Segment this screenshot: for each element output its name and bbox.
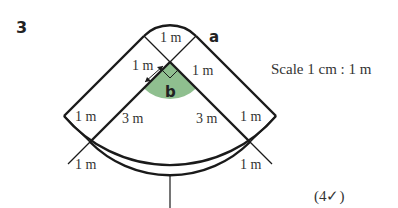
inner-left-arm	[90, 62, 170, 142]
garden-diagram: 1 m 1 m 1 m a b 1 m 3 m 3 m 1 m 1 m 1 m	[0, 0, 398, 208]
outer-left-edge	[64, 36, 144, 116]
label-right-upper: 1 m	[240, 109, 262, 124]
label-right-inner-top: 1 m	[192, 63, 214, 78]
inner-arc	[90, 142, 250, 175]
label-top-cap: 1 m	[160, 30, 182, 45]
label-left-radius: 3 m	[122, 111, 144, 126]
label-arrow-width: 1 m	[132, 58, 154, 73]
label-left-upper: 1 m	[75, 109, 97, 124]
label-region-a: a	[209, 28, 219, 46]
label-right-lower: 1 m	[240, 157, 262, 172]
label-region-b: b	[165, 83, 176, 101]
label-right-radius: 3 m	[196, 111, 218, 126]
label-left-lower: 1 m	[75, 157, 97, 172]
